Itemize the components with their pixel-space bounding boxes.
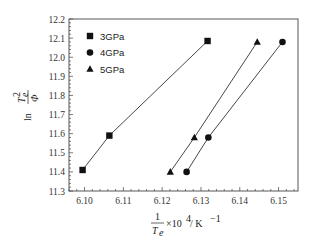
series-4gpa	[183, 39, 285, 176]
triangle-marker	[254, 38, 261, 45]
legend-label: 3GPa	[100, 31, 125, 42]
y-label-prefix: ln	[22, 113, 33, 121]
x-tick-label: 6.11	[115, 196, 132, 206]
x-tick-label: 6.12	[154, 196, 171, 206]
y-tick-label: 11.7	[49, 110, 66, 120]
plot-frame	[69, 19, 298, 191]
legend-circle-marker	[87, 49, 94, 56]
series-line	[83, 41, 208, 170]
series-line	[170, 42, 257, 172]
x-tick-label: 6.14	[231, 196, 248, 206]
series-3gpa	[79, 38, 210, 173]
circle-marker	[279, 39, 286, 46]
legend-label: 5GPa	[100, 64, 125, 75]
y-tick-label: 11.9	[49, 72, 66, 82]
series-layer	[79, 38, 285, 175]
y-tick-label: 11.5	[49, 148, 66, 158]
y-label-numerator-exp: 2	[11, 92, 22, 97]
triangle-marker	[191, 134, 198, 141]
y-tick-label: 11.6	[49, 129, 66, 139]
y-tick-label: 11.4	[49, 167, 66, 177]
x-axis-ticks: 6.106.116.126.136.146.15	[69, 187, 294, 206]
y-tick-label: 11.3	[49, 187, 66, 197]
legend-triangle-marker	[86, 65, 93, 72]
y-tick-label: 12.1	[48, 34, 65, 44]
series-5gpa	[167, 38, 261, 175]
triangle-marker	[167, 168, 174, 175]
x-tick-label: 6.10	[76, 196, 93, 206]
x-tick-label: 6.15	[270, 196, 287, 206]
series-line	[187, 42, 283, 172]
x-label-unit-exp: −1	[210, 213, 221, 224]
legend-label: 4GPa	[100, 47, 125, 58]
x-label-suffix: ×10	[166, 218, 182, 229]
y-tick-label: 12.0	[48, 53, 65, 63]
plot-border	[69, 19, 298, 191]
x-axis-label: 1 T e ×10 4 / K −1	[151, 211, 221, 238]
square-marker	[106, 132, 112, 138]
square-marker	[79, 167, 85, 173]
chart: 6.106.116.126.136.146.15 11.311.411.511.…	[0, 0, 311, 250]
y-tick-label: 11.8	[49, 91, 66, 101]
x-label-denominator-sub: e	[159, 227, 164, 238]
y-axis-label: ln T e 2 Φ	[11, 90, 40, 121]
x-label-numerator: 1	[155, 211, 160, 222]
legend-square-marker	[87, 33, 93, 39]
x-label-denominator: T	[152, 225, 159, 236]
y-label-denominator: Φ	[29, 94, 40, 102]
y-tick-label: 12.2	[48, 15, 65, 25]
x-label-unit: / K	[190, 218, 203, 229]
square-marker	[204, 38, 210, 44]
circle-marker	[205, 134, 212, 141]
circle-marker	[183, 169, 190, 176]
x-tick-label: 6.13	[193, 196, 210, 206]
legend: 3GPa4GPa5GPa	[86, 31, 125, 75]
